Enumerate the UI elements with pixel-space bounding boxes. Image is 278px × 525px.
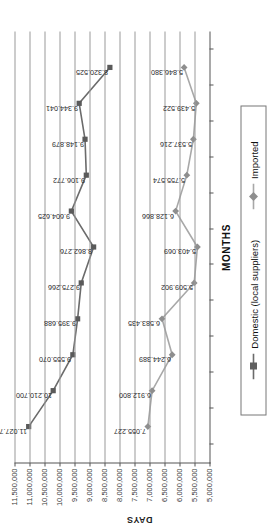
y-axis-tick <box>149 462 150 466</box>
y-axis-tick-label: 8,500,000 <box>100 468 109 501</box>
y-axis-tick-label: 10,000,000 <box>55 468 64 506</box>
y-axis-tick-label: 6,500,000 <box>160 468 169 501</box>
y-axis-tick <box>89 462 90 466</box>
y-axis-tick-label: 8,000,000 <box>115 468 124 501</box>
y-axis-tick <box>59 462 60 466</box>
data-point-marker <box>76 100 81 105</box>
legend-item-imported: Imported <box>247 141 259 210</box>
x-axis-tick <box>209 84 213 85</box>
x-axis-tick <box>209 48 213 49</box>
legend-marker-square-icon <box>247 353 259 379</box>
data-point-marker <box>82 136 87 141</box>
legend-item-domestic: Domestic (local suppliers) <box>247 239 259 379</box>
gridline <box>164 31 165 462</box>
y-axis-title: DAYS <box>126 514 152 524</box>
gridline <box>74 31 75 462</box>
y-axis-tick-label: 7,500,000 <box>130 468 139 501</box>
line-chart: DAYS 11,500,00011,000,00010,500,00010,00… <box>0 0 278 525</box>
gridline <box>29 31 30 462</box>
series-line-domestic <box>28 67 109 426</box>
y-axis-tick-label: 11,500,000 <box>10 468 19 505</box>
y-axis-tick <box>119 462 120 466</box>
x-axis-tick <box>209 335 213 336</box>
gridline <box>194 31 195 462</box>
data-point-marker <box>83 172 88 177</box>
chart-rotor: DAYS 11,500,00011,000,00010,500,00010,00… <box>0 0 278 525</box>
y-axis-tick <box>164 462 165 466</box>
y-axis-tick <box>194 462 195 466</box>
x-axis-tick <box>209 228 213 229</box>
legend-marker-diamond-icon <box>247 183 259 209</box>
y-axis-tick <box>74 462 75 466</box>
gridline <box>14 31 15 462</box>
rotated-chart-wrapper: DAYS 11,500,00011,000,00010,500,00010,00… <box>0 0 278 525</box>
x-axis-tick <box>209 156 213 157</box>
x-axis-tick <box>209 443 213 444</box>
data-point-marker <box>68 208 73 213</box>
data-point-marker <box>50 388 55 393</box>
y-axis-tick-label: 5,500,000 <box>190 468 199 501</box>
x-axis-title: MONTHS <box>220 31 231 463</box>
x-axis-tick <box>209 299 213 300</box>
gridline <box>44 31 45 462</box>
y-axis-tick-label: 10,500,000 <box>40 468 49 506</box>
y-axis-tick <box>179 462 180 466</box>
series-line-imported <box>147 67 197 426</box>
data-point-marker <box>78 280 83 285</box>
plot-area: 11,500,00011,000,00010,500,00010,000,000… <box>14 31 210 463</box>
gridline <box>119 31 120 462</box>
data-point-marker <box>168 351 175 358</box>
y-axis-tick <box>134 462 135 466</box>
legend-label-imported: Imported <box>248 141 259 179</box>
y-axis-tick <box>29 462 30 466</box>
y-axis-tick-label: 9,500,000 <box>70 468 79 501</box>
gridline <box>149 31 150 462</box>
data-point-marker <box>192 99 199 106</box>
gridline <box>134 31 135 462</box>
gridline <box>179 31 180 462</box>
x-axis-tick <box>209 263 213 264</box>
y-axis-tick-label: 11,000,000 <box>25 468 34 505</box>
x-axis-tick <box>209 120 213 121</box>
y-axis-tick <box>209 462 210 466</box>
y-axis-tick <box>44 462 45 466</box>
y-axis-tick-label: 7,000,000 <box>145 468 154 501</box>
gridline <box>104 31 105 462</box>
gridline <box>89 31 90 462</box>
y-axis-tick <box>14 462 15 466</box>
y-axis-tick <box>104 462 105 466</box>
x-axis-tick <box>209 407 213 408</box>
y-axis-tick-label: 9,000,000 <box>85 468 94 501</box>
data-point-marker <box>183 171 190 178</box>
x-axis-tick <box>209 371 213 372</box>
data-point-marker <box>91 244 96 249</box>
data-point-marker <box>180 64 187 71</box>
y-axis-tick-label: 6,000,000 <box>175 468 184 501</box>
legend-label-domestic: Domestic (local suppliers) <box>248 239 259 348</box>
y-axis-tick-label: 5,000,000 <box>205 468 214 501</box>
chart-legend: Domestic (local suppliers) Imported <box>240 105 266 415</box>
gridline <box>59 31 60 462</box>
x-axis-tick <box>209 192 213 193</box>
data-point-marker <box>107 64 112 69</box>
